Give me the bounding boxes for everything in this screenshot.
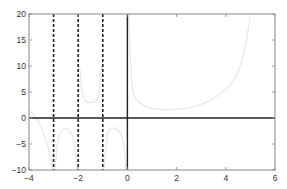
curve-segment (129, 14, 251, 110)
x-tick-label: 4 (223, 173, 228, 183)
curve-segment (29, 110, 52, 170)
x-tick-label: 2 (174, 173, 179, 183)
x-tick-label: −2 (73, 173, 83, 183)
y-tick-label: 20 (17, 9, 27, 19)
function-curve (29, 14, 250, 170)
plot-frame (29, 14, 275, 170)
y-tick-label: −10 (12, 165, 27, 175)
y-axis: −10−505101520 (12, 9, 275, 175)
y-tick-label: 10 (17, 61, 27, 71)
reference-lines (29, 14, 275, 170)
x-tick-label: 6 (273, 173, 278, 183)
chart: −4−20246 −10−505101520 (0, 0, 287, 189)
y-tick-label: 5 (21, 87, 26, 97)
x-tick-label: 0 (125, 173, 130, 183)
curve-segment (104, 128, 126, 170)
curve-segment (55, 128, 77, 170)
y-tick-label: 15 (17, 35, 27, 45)
y-tick-label: 0 (21, 113, 26, 123)
y-tick-label: −5 (16, 139, 26, 149)
x-axis: −4−20246 (24, 14, 277, 183)
curve-segment (79, 66, 101, 102)
